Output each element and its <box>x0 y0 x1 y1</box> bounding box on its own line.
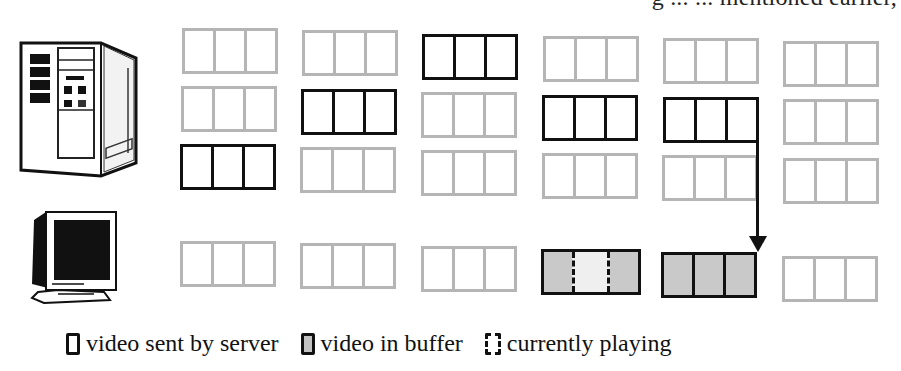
video-block-idle <box>662 155 758 201</box>
crt-monitor-icon <box>24 208 124 312</box>
legend-item-sent: video sent by server <box>66 330 279 357</box>
transfer-arrow-line <box>756 100 759 240</box>
video-block-idle <box>421 150 517 196</box>
transfer-arrow-head-icon <box>749 236 767 252</box>
legend-label: currently playing <box>507 330 672 357</box>
legend-label: video in buffer <box>321 330 463 357</box>
legend: video sent by server video in buffer cur… <box>66 330 693 357</box>
video-block-idle <box>663 38 759 84</box>
legend-item-playing: currently playing <box>485 330 672 357</box>
buffer-swatch-icon <box>301 333 315 355</box>
video-block-sent <box>542 95 638 141</box>
video-block-idle <box>421 246 517 292</box>
clipped-caption-text: g ... ... mentioned earlier, <box>652 0 897 11</box>
server-tower-icon <box>16 38 141 182</box>
video-block-idle <box>302 30 398 76</box>
legend-item-buffer: video in buffer <box>301 330 463 357</box>
video-block-idle <box>783 41 879 87</box>
video-block-idle <box>783 99 879 145</box>
video-block-idle <box>182 28 278 74</box>
video-block-idle <box>300 243 396 289</box>
video-block-sent <box>301 89 397 135</box>
video-block-idle <box>543 36 639 82</box>
video-block-sent <box>663 97 759 143</box>
video-block-buffer-playing <box>541 249 641 295</box>
video-block-sent <box>422 34 518 80</box>
playing-swatch-icon <box>485 333 501 355</box>
sent-swatch-icon <box>66 333 80 355</box>
video-block-idle <box>181 86 277 132</box>
video-block-idle <box>300 147 396 193</box>
video-block-buffer <box>661 252 757 298</box>
video-block-idle <box>180 241 276 287</box>
legend-label: video sent by server <box>86 330 279 357</box>
video-block-idle <box>421 92 517 138</box>
video-block-idle <box>542 153 638 199</box>
video-block-idle <box>783 158 879 204</box>
video-block-sent <box>180 144 276 190</box>
video-block-idle <box>782 256 878 302</box>
currently-playing-segment <box>572 252 609 292</box>
